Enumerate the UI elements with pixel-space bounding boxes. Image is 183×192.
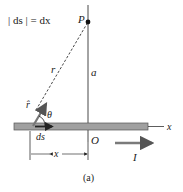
label-theta: θ [47, 109, 52, 120]
label-origin: O [91, 134, 99, 146]
figure-caption: (a) [83, 172, 94, 184]
label-offset-x: x [53, 148, 59, 159]
equation-text: | ds | = dx [8, 14, 51, 26]
label-p: P [77, 13, 85, 25]
label-r-hat: r̂ [26, 99, 30, 110]
label-a: a [91, 66, 97, 78]
biot-savart-diagram: | ds | = dx P r a x r̂ θ ds O x I (a) [0, 0, 183, 192]
point-p-dot [86, 20, 91, 25]
label-ds: ds [36, 131, 45, 142]
dashed-line-r [36, 22, 88, 110]
label-x-axis: x [166, 121, 172, 132]
label-r: r [51, 63, 56, 75]
label-current: I [132, 151, 138, 163]
